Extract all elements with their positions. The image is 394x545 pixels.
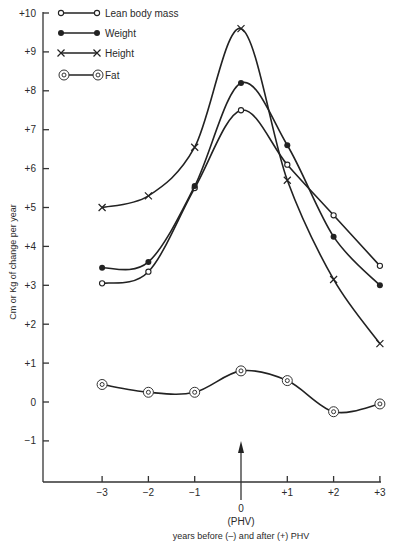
filled-circle-marker-icon [192, 183, 198, 189]
open-circle-marker-icon [100, 281, 105, 286]
cross-marker-icon [284, 177, 291, 184]
double-circle-marker-icon [329, 407, 339, 417]
double-circle-marker-icon [59, 70, 69, 80]
legend-label: Weight [105, 28, 136, 39]
double-circle-marker-icon [143, 387, 153, 397]
series-height [99, 25, 384, 347]
double-circle-marker-icon [236, 366, 246, 376]
legend-label: Fat [105, 70, 120, 81]
x-tick-label: +1 [282, 487, 294, 498]
open-circle-marker-icon [377, 263, 382, 268]
x-tick-label: −3 [96, 487, 108, 498]
x-tick-label: −1 [189, 487, 201, 498]
legend-item: Weight [58, 28, 136, 39]
x-tick-label: +3 [374, 487, 386, 498]
y-tick-label: −1 [25, 435, 37, 446]
open-circle-marker-icon [146, 269, 151, 274]
double-circle-marker-icon [93, 70, 103, 80]
y-tick-label: +3 [25, 280, 37, 291]
filled-circle-marker-icon [94, 30, 100, 36]
legend-label: Height [105, 48, 134, 59]
x-tick-label: −2 [143, 487, 155, 498]
double-circle-marker-icon [190, 387, 200, 397]
x-zero-label: 0 [238, 503, 244, 514]
y-tick-label: +7 [25, 124, 37, 135]
y-tick-label: +1 [25, 358, 37, 369]
legend: Lean body massWeightHeightFat [58, 8, 179, 81]
x-tick-label: +2 [328, 487, 340, 498]
phv-label: (PHV) [227, 516, 254, 527]
open-circle-marker-icon [331, 213, 336, 218]
open-circle-marker-icon [94, 10, 99, 15]
filled-circle-marker-icon [284, 142, 290, 148]
filled-circle-marker-icon [99, 265, 105, 271]
double-circle-marker-icon [375, 399, 385, 409]
y-tick-label: +6 [25, 163, 37, 174]
phv-arrow-icon [238, 441, 244, 453]
filled-circle-marker-icon [377, 282, 383, 288]
line-chart: +10+9+8+7+6+5+4+3+2+10−1 −3−2−1+1+2+3 Le… [0, 0, 394, 545]
y-tick-label: +4 [25, 241, 37, 252]
cross-marker-icon [376, 340, 383, 347]
cross-marker-icon [191, 144, 198, 151]
legend-label: Lean body mass [105, 8, 178, 19]
open-circle-marker-icon [285, 162, 290, 167]
y-tick-label: 0 [30, 397, 36, 408]
series-lean-body-mass [100, 108, 383, 286]
y-tick-label: +2 [25, 319, 37, 330]
y-tick-label: +5 [25, 202, 37, 213]
double-circle-marker-icon [282, 376, 292, 386]
legend-item: Fat [59, 70, 120, 81]
y-axis-ticks: +10+9+8+7+6+5+4+3+2+10−1 [19, 8, 49, 447]
y-tick-label: +8 [25, 85, 37, 96]
legend-item: Height [58, 48, 135, 59]
open-circle-marker-icon [238, 108, 243, 113]
axes [43, 12, 381, 500]
y-tick-label: +9 [25, 46, 37, 57]
filled-circle-marker-icon [238, 80, 244, 86]
double-circle-marker-icon [97, 379, 107, 389]
filled-circle-marker-icon [331, 234, 337, 240]
open-circle-marker-icon [58, 10, 63, 15]
x-axis-label: years before (–) and after (+) PHV [173, 531, 309, 541]
y-tick-label: +10 [19, 8, 36, 19]
cross-marker-icon [145, 192, 152, 199]
series-lines [97, 25, 385, 417]
filled-circle-marker-icon [58, 30, 64, 36]
y-axis-label: Cm or Kg of change per year [8, 204, 18, 320]
series-fat [97, 366, 385, 417]
filled-circle-marker-icon [145, 259, 151, 265]
cross-marker-icon [330, 276, 337, 283]
legend-item: Lean body mass [58, 8, 178, 19]
